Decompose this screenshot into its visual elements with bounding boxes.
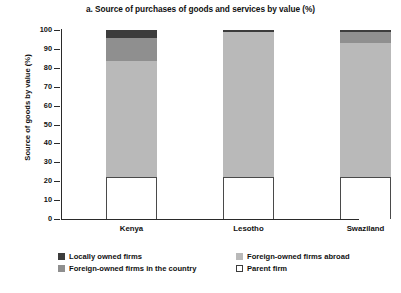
bar-segment [223, 177, 274, 219]
legend-swatch-icon [58, 253, 65, 260]
y-axis-tick-label: 70 [20, 82, 52, 91]
y-axis-tick-label: 100 [20, 25, 52, 34]
y-axis-tick [54, 68, 60, 69]
legend-label: Foreign-owned firms in the country [69, 264, 196, 273]
legend-swatch-icon [236, 253, 243, 260]
y-axis-tick [54, 200, 60, 201]
y-axis-tick [54, 49, 60, 50]
bar-segment [223, 32, 274, 178]
legend-row: Foreign-owned firms in the country Paren… [58, 264, 388, 273]
x-axis-label-swaziland: Swaziland [321, 224, 401, 233]
legend-item-locally-owned-firms: Locally owned firms [58, 252, 236, 261]
y-axis-tick-label: 50 [20, 120, 52, 129]
bar-segment [340, 32, 391, 43]
legend-swatch-icon [58, 265, 65, 272]
legend-label: Parent firm [247, 264, 287, 273]
y-axis-tick-label: 40 [20, 138, 52, 147]
x-axis-label-lesotho: Lesotho [204, 224, 294, 233]
y-axis-tick [54, 143, 60, 144]
chart-title: a. Source of purchases of goods and serv… [0, 4, 401, 14]
y-axis-tick [54, 30, 60, 31]
y-axis-tick [54, 125, 60, 126]
chart-legend: Locally owned firms Foreign-owned firms … [58, 252, 388, 275]
bar-segment [106, 38, 157, 62]
legend-item-parent-firm: Parent firm [236, 264, 287, 273]
y-axis-tick-label: 20 [20, 176, 52, 185]
x-axis-label-kenya: Kenya [87, 224, 177, 233]
chart-container: a. Source of purchases of goods and serv… [0, 0, 401, 293]
plot-area: 0102030405060708090100 [62, 30, 359, 219]
bar-swaziland[interactable] [340, 30, 391, 219]
bar-segment [106, 61, 157, 177]
y-axis-tick-label: 90 [20, 44, 52, 53]
legend-label: Locally owned firms [69, 252, 142, 261]
legend-item-foreign-owned-firms-abroad: Foreign-owned firms abroad [236, 252, 350, 261]
bar-segment [340, 177, 391, 219]
y-axis-tick [54, 87, 60, 88]
y-axis-tick-label: 0 [20, 214, 52, 223]
y-axis-tick [54, 162, 60, 163]
y-axis-tick [54, 219, 60, 220]
bar-kenya[interactable] [106, 30, 157, 219]
legend-label: Foreign-owned firms abroad [247, 252, 350, 261]
legend-item-foreign-owned-firms-in-the-country: Foreign-owned firms in the country [58, 264, 236, 273]
y-axis-tick-label: 30 [20, 157, 52, 166]
legend-swatch-icon [236, 265, 243, 272]
bar-lesotho[interactable] [223, 30, 274, 219]
y-axis-tick-label: 10 [20, 195, 52, 204]
bar-segment [340, 43, 391, 177]
y-axis-tick [54, 181, 60, 182]
y-axis-tick-label: 60 [20, 101, 52, 110]
x-axis-line [61, 219, 359, 220]
y-axis-tick-label: 80 [20, 63, 52, 72]
bar-segment [106, 30, 157, 38]
legend-row: Locally owned firms Foreign-owned firms … [58, 252, 388, 261]
y-axis-tick [54, 106, 60, 107]
bar-segment [106, 177, 157, 219]
